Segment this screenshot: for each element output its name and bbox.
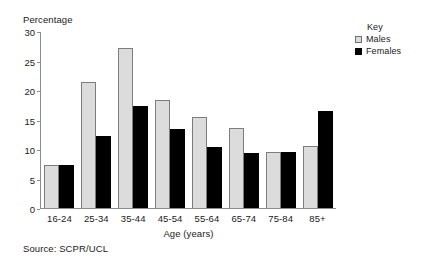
x-tick-label: 35-44: [115, 213, 152, 224]
x-tick-label: 45-54: [152, 213, 189, 224]
y-tick-label: 0: [30, 204, 35, 215]
bar-males-45-54[interactable]: [155, 100, 170, 208]
legend-item-males: Males: [355, 34, 401, 45]
x-tick-label: 16-24: [41, 213, 78, 224]
bar-males-55-64[interactable]: [192, 117, 207, 208]
bar-males-65-74[interactable]: [229, 128, 244, 208]
legend-title: Key: [367, 22, 401, 33]
y-tick-label: 15: [24, 115, 35, 126]
bar-females-45-54[interactable]: [170, 129, 185, 208]
y-tick-label: 20: [24, 86, 35, 97]
y-tick-label: 30: [24, 27, 35, 38]
bar-males-35-44[interactable]: [118, 48, 133, 208]
x-tick-label: 55-64: [189, 213, 226, 224]
y-axis-title: Percentage: [23, 14, 73, 25]
bar-group: [78, 32, 115, 208]
bar-females-85+[interactable]: [318, 111, 333, 208]
bar-group: [262, 32, 299, 208]
x-tick-label: 25-34: [78, 213, 115, 224]
chart-figure: Percentage Key Males Females 05101520253…: [0, 0, 446, 269]
x-axis-tick-labels: 16-2425-3435-4445-5455-6465-7475-8485+: [41, 213, 336, 224]
y-tick-mark: [37, 121, 40, 122]
y-tick-mark: [37, 209, 40, 210]
legend-item-females: Females: [355, 46, 401, 57]
bar-group: [189, 32, 226, 208]
bar-males-16-24[interactable]: [44, 165, 59, 208]
plot-area: 051015202530: [40, 32, 336, 209]
legend-swatch-males-icon: [355, 36, 362, 43]
y-tick-mark: [37, 180, 40, 181]
bar-females-65-74[interactable]: [244, 153, 259, 208]
bar-males-75-84[interactable]: [266, 152, 281, 208]
source-note: Source: SCPR/UCL: [23, 243, 108, 254]
y-tick-label: 10: [24, 145, 35, 156]
bar-group: [299, 32, 336, 208]
bar-females-35-44[interactable]: [133, 106, 148, 208]
bar-groups: [41, 32, 336, 208]
bar-group: [152, 32, 189, 208]
bar-males-25-34[interactable]: [81, 82, 96, 208]
x-axis-title: Age (years): [41, 228, 336, 239]
bar-females-25-34[interactable]: [96, 136, 111, 208]
y-tick-label: 25: [24, 56, 35, 67]
x-tick-label: 65-74: [225, 213, 262, 224]
y-tick-mark: [37, 91, 40, 92]
y-tick-label: 5: [30, 174, 35, 185]
bar-group: [41, 32, 78, 208]
legend-label-males: Males: [366, 34, 391, 45]
bar-females-75-84[interactable]: [281, 152, 296, 208]
x-tick-label: 85+: [299, 213, 336, 224]
bar-males-85+[interactable]: [303, 146, 318, 208]
bar-females-55-64[interactable]: [207, 147, 222, 208]
x-tick-label: 75-84: [262, 213, 299, 224]
chart-legend: Key Males Females: [355, 22, 401, 58]
bar-females-16-24[interactable]: [59, 165, 74, 208]
bar-group: [225, 32, 262, 208]
legend-label-females: Females: [366, 46, 401, 57]
x-axis-line: [40, 208, 336, 209]
y-tick-mark: [37, 150, 40, 151]
y-tick-mark: [37, 32, 40, 33]
legend-swatch-females-icon: [355, 48, 362, 55]
bar-group: [115, 32, 152, 208]
y-tick-mark: [37, 62, 40, 63]
